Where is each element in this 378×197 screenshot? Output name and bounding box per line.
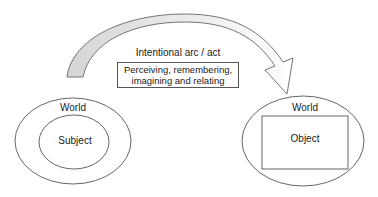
diagram-canvas [0,0,378,197]
subject-label: Subject [58,136,91,146]
intentional-arc-label: Intentional arc / act [136,48,221,58]
object-label: Object [291,134,320,144]
world-label-left: World [60,103,86,113]
activities-box: Perceiving, remembering, imagining and r… [117,62,239,88]
world-label-right: World [292,103,318,113]
activities-line-2: imagining and relating [132,75,225,87]
activities-line-1: Perceiving, remembering, [124,64,232,76]
